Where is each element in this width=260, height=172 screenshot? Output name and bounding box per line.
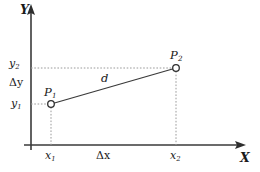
point-label-p2: P2 <box>170 50 182 62</box>
diagram-canvas <box>0 0 260 172</box>
y-axis <box>27 4 35 150</box>
point-label-p1: P1 <box>44 87 56 99</box>
tick-label-x1: x1 <box>45 150 56 162</box>
distance-label: d <box>101 73 108 85</box>
tick-label-x2: x2 <box>170 150 181 162</box>
y-axis-label: Y <box>20 4 29 17</box>
x-axis <box>24 141 246 149</box>
point-marker-p1 <box>48 101 55 108</box>
delta-x-label: Δx <box>96 150 110 161</box>
distance-segment <box>51 68 176 104</box>
tick-label-y2: y2 <box>9 58 20 70</box>
tick-label-y1: y1 <box>11 98 22 110</box>
delta-y-label: Δy <box>9 77 23 88</box>
distance-formula-diagram: Y X y2 y1 Δy x1 x2 Δx P1 P2 d <box>0 0 260 172</box>
point-marker-p2 <box>173 65 180 72</box>
x-axis-label: X <box>240 152 250 165</box>
